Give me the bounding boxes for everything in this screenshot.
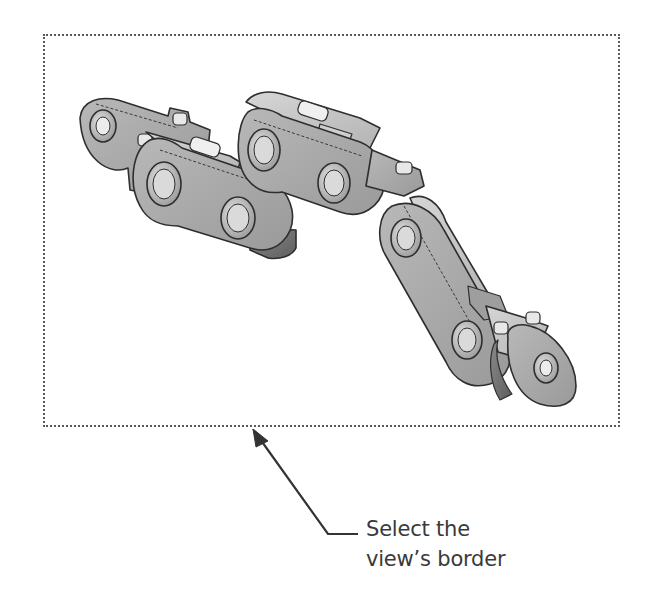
arrowhead-icon <box>253 429 268 444</box>
callout-line-1: Select the <box>366 514 505 544</box>
callout-line-2: view’s border <box>366 544 505 574</box>
drawing-view-border[interactable] <box>43 34 620 427</box>
callout-label: Select the view’s border <box>366 514 505 574</box>
